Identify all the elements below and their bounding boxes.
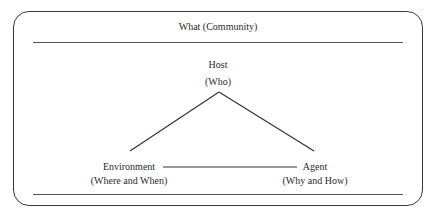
agent-sublabel: (Why and How) [283, 175, 348, 187]
triangle-edges [0, 0, 437, 219]
edge-host-environment [130, 92, 219, 151]
agent-label: Agent [303, 161, 327, 173]
environment-label: Environment [103, 161, 155, 173]
bottom-divider [33, 194, 403, 195]
edge-host-agent [219, 92, 314, 151]
environment-sublabel: (Where and When) [91, 175, 167, 187]
